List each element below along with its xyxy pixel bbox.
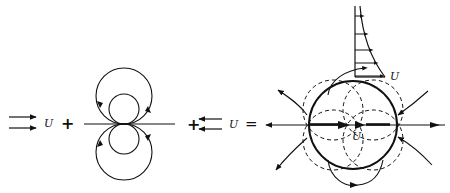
doublet-streamline: [109, 124, 139, 154]
plus-operator: +: [187, 115, 200, 134]
profile-curve: [360, 6, 385, 77]
uniform-stream-term: U: [9, 117, 54, 130]
bottom-arrowhead-icon: [350, 182, 358, 188]
reverse-stream-label: U: [229, 118, 239, 131]
inflow-arrowhead-icon: [430, 122, 440, 128]
center-velocity-label: U: [352, 130, 362, 143]
doublet-streamline: [109, 94, 139, 124]
doublet-term: [84, 68, 175, 180]
doublet-streamline: [96, 124, 152, 180]
outer-streamline: [398, 91, 428, 115]
doublet-streamline: [96, 68, 152, 124]
cylinder-flow-result: U U: [266, 6, 445, 188]
outer-streamline: [276, 138, 307, 170]
uniform-stream-label: U: [44, 117, 54, 130]
equals-operator: =: [245, 115, 258, 133]
center-arrowhead-icon: [338, 121, 350, 129]
reverse-stream-term: U: [199, 118, 239, 131]
plus-operator: +: [61, 114, 74, 133]
superposition-diagram: U + + U = U: [0, 0, 450, 193]
profile-velocity-label: U: [390, 70, 400, 83]
